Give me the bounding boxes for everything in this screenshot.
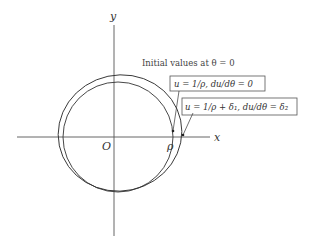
x-axis-label: x: [214, 131, 221, 144]
perturbed-marker: [182, 134, 185, 137]
rho-label: ρ: [166, 140, 174, 153]
perturbed-annotation-text: u = 1/ρ + δ₁, du/dθ = δ₂: [185, 102, 289, 112]
origin-label: O: [102, 140, 111, 153]
orbit-perturbation-diagram: y x O ρ Initial values at θ = 0 u = 1/ρ,…: [0, 0, 311, 245]
perturbed-leader-line: [183, 113, 193, 135]
initial-values-caption: Initial values at θ = 0: [142, 58, 235, 68]
y-axis-label: y: [109, 10, 117, 23]
unperturbed-marker: [172, 130, 175, 133]
unperturbed-annotation-text: u = 1/ρ, du/dθ = 0: [174, 79, 254, 89]
